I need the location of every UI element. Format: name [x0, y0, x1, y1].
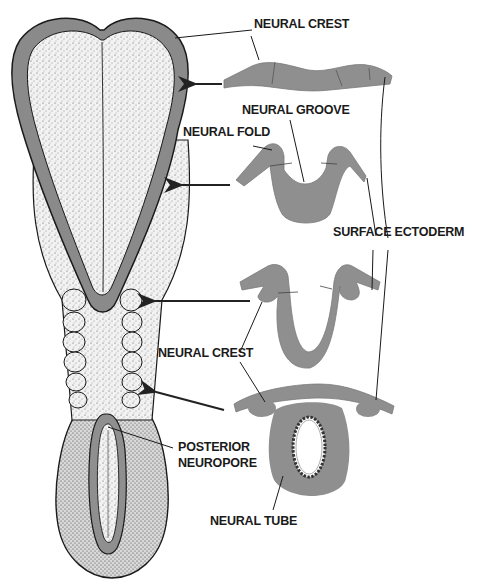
- neural-tube-formation-diagram: NEURAL CREST NEURAL GROOVE NEURAL FOLD S…: [0, 0, 481, 588]
- embryo-dorsal-view: [12, 18, 190, 578]
- section-1-neural-plate: [224, 62, 392, 91]
- label-neural-tube: NEURAL TUBE: [210, 514, 297, 529]
- label-surface-ectoderm: SURFACE ECTODERM: [333, 225, 464, 240]
- label-posterior-neuropore-2: NEUROPORE: [178, 456, 257, 471]
- label-neural-fold: NEURAL FOLD: [183, 125, 270, 140]
- label-posterior-neuropore-1: POSTERIOR: [178, 440, 250, 455]
- figure-caption-cutoff: [14, 576, 474, 586]
- section-3-neural-folds: [240, 264, 380, 368]
- diagram-artwork: [0, 0, 481, 588]
- label-neural-crest-mid: NEURAL CREST: [158, 346, 253, 361]
- label-neural-groove: NEURAL GROOVE: [242, 103, 350, 118]
- arrow-section-4: [156, 392, 224, 410]
- section-2-neural-groove: [236, 144, 366, 223]
- section-4-neural-tube: [234, 384, 394, 496]
- label-neural-crest-top: NEURAL CREST: [254, 17, 349, 32]
